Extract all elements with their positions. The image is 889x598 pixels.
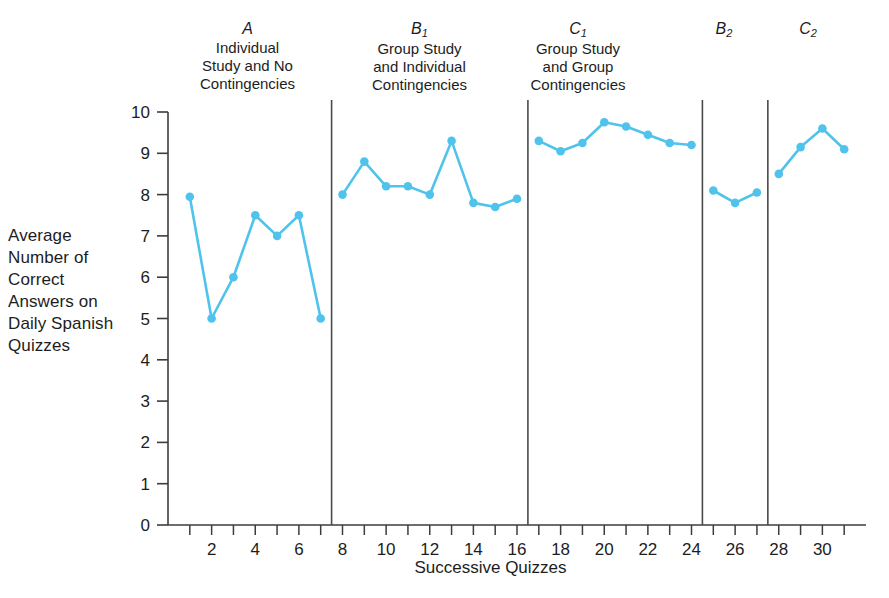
y-tick-label: 2: [141, 433, 150, 452]
y-tick-label: 9: [141, 144, 150, 163]
phase-code-c1-sub: 1: [581, 27, 587, 39]
y-axis-title: Average Number of Correct Answers on Dai…: [8, 225, 120, 357]
x-tick-label: 16: [508, 540, 527, 559]
data-point: [644, 130, 653, 139]
x-axis-ticks: 24681012141618202224262830: [190, 525, 844, 559]
x-tick-label: 28: [769, 540, 788, 559]
phase-code-b1-sub: 1: [422, 27, 428, 39]
phase-header-c1: C1 Group Study and Group Contingencies: [494, 20, 662, 94]
y-tick-label: 4: [141, 351, 150, 370]
x-tick-label: 2: [207, 540, 216, 559]
data-point: [622, 122, 631, 131]
data-point: [404, 182, 413, 191]
data-point: [796, 143, 805, 152]
x-tick-label: 12: [420, 540, 439, 559]
phase-divider-lines: [332, 100, 768, 525]
y-tick-label: 1: [141, 475, 150, 494]
phase-code-c1: C1: [494, 20, 662, 39]
phase-desc-a: Individual Study and No Contingencies: [160, 39, 335, 93]
phase-desc-c1: Group Study and Group Contingencies: [494, 40, 662, 94]
data-point: [753, 188, 762, 197]
phase-line: [779, 129, 844, 174]
data-point: [731, 199, 740, 208]
data-point: [818, 124, 827, 133]
data-point: [840, 145, 849, 154]
phase-code-c2: C2: [778, 20, 838, 39]
chart-figure: Average Number of Correct Answers on Dai…: [0, 0, 889, 598]
data-point: [513, 194, 522, 203]
phase-code-b1-letter: B: [411, 20, 422, 37]
y-tick-label: 10: [131, 103, 150, 122]
x-tick-label: 14: [464, 540, 483, 559]
data-point: [207, 314, 216, 323]
x-tick-label: 30: [813, 540, 832, 559]
data-point: [535, 137, 544, 146]
x-axis-title: Successive Quizzes: [414, 558, 566, 578]
x-tick-label: 20: [595, 540, 614, 559]
data-point: [295, 211, 304, 220]
phase-desc-b1: Group Study and Individual Contingencies: [337, 40, 502, 94]
data-point: [426, 190, 435, 199]
phase-code-a: A: [160, 20, 335, 38]
data-point: [316, 314, 325, 323]
y-tick-label: 3: [141, 392, 150, 411]
x-tick-label: 18: [551, 540, 570, 559]
phase-code-b1: B1: [337, 20, 502, 39]
data-point: [775, 170, 784, 179]
y-tick-label: 8: [141, 186, 150, 205]
y-tick-label: 6: [141, 268, 150, 287]
y-tick-label: 7: [141, 227, 150, 246]
phase-code-a-letter: A: [242, 20, 253, 37]
data-point: [556, 147, 565, 156]
phase-header-a: A Individual Study and No Contingencies: [160, 20, 335, 93]
phase-header-b2: B2: [694, 20, 754, 40]
data-line-segments: [190, 122, 844, 318]
data-point: [338, 190, 347, 199]
phase-header-b1: B1 Group Study and Individual Contingenc…: [337, 20, 502, 94]
y-axis-ticks: 012345678910: [131, 103, 168, 535]
phase-code-c1-letter: C: [569, 20, 581, 37]
x-tick-label: 6: [294, 540, 303, 559]
phase-code-b2-sub: 2: [726, 27, 732, 39]
phase-code-b2-letter: B: [716, 20, 727, 37]
phase-code-c2-sub: 2: [811, 27, 817, 39]
phase-header-c2: C2: [778, 20, 838, 40]
data-point: [186, 192, 195, 201]
data-point: [447, 137, 456, 146]
data-point: [273, 232, 282, 241]
y-tick-label: 0: [141, 516, 150, 535]
y-tick-label: 5: [141, 310, 150, 329]
x-tick-label: 26: [726, 540, 745, 559]
data-point: [229, 273, 238, 282]
phase-code-c2-letter: C: [799, 20, 811, 37]
data-point-markers: [186, 118, 849, 323]
data-point: [687, 141, 696, 150]
data-point: [709, 186, 718, 195]
data-point: [600, 118, 609, 127]
data-point: [382, 182, 391, 191]
data-point: [360, 157, 369, 166]
x-tick-label: 8: [338, 540, 347, 559]
x-axis-title-row: Successive Quizzes: [0, 558, 889, 578]
x-tick-label: 4: [251, 540, 260, 559]
data-point: [665, 139, 674, 148]
x-tick-label: 10: [377, 540, 396, 559]
data-point: [491, 203, 500, 212]
data-point: [578, 139, 587, 148]
phase-code-b2: B2: [694, 20, 754, 39]
x-tick-label: 22: [638, 540, 657, 559]
x-tick-label: 24: [682, 540, 701, 559]
data-point: [251, 211, 260, 220]
data-point: [469, 199, 478, 208]
